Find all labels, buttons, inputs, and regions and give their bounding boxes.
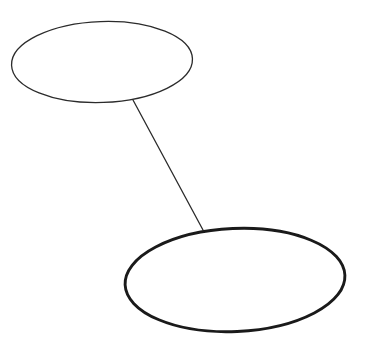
diagram-svg [0,0,371,346]
diagram-canvas [0,0,371,346]
canvas-background [0,0,371,346]
